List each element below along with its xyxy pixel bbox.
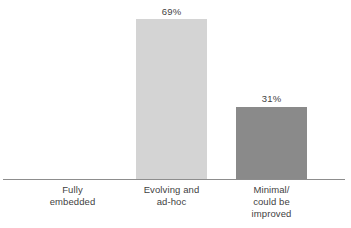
- x-axis-tick-labels: Fully embedded Evolving and ad-hoc Minim…: [0, 184, 351, 228]
- x-axis-line: [3, 179, 345, 180]
- x-tick-label-line: ad-hoc: [119, 196, 224, 208]
- x-tick-label-line: could be: [219, 196, 324, 208]
- x-tick-label-evolving-and-ad-hoc: Evolving and ad-hoc: [119, 184, 224, 208]
- x-tick-label-line: Minimal/: [219, 184, 324, 196]
- value-label-minimal-could-be-improved: 31%: [236, 93, 307, 104]
- bar-chart: 69% 31% Fully embedded Evolving and ad-h…: [0, 0, 351, 228]
- x-tick-label-line: Evolving and: [119, 184, 224, 196]
- bar-evolving-and-ad-hoc: [136, 19, 207, 179]
- x-tick-label-line: Fully: [20, 184, 125, 196]
- x-tick-label-fully-embedded: Fully embedded: [20, 184, 125, 208]
- value-label-evolving-and-ad-hoc: 69%: [136, 6, 207, 17]
- x-tick-label-minimal-could-be-improved: Minimal/ could be improved: [219, 184, 324, 221]
- x-tick-label-line: embedded: [20, 196, 125, 208]
- bar-minimal-could-be-improved: [236, 107, 307, 179]
- x-tick-label-line: improved: [219, 208, 324, 220]
- plot-area: 69% 31%: [0, 0, 351, 181]
